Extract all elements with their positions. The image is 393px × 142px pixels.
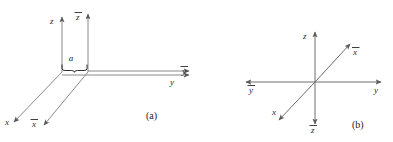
coordinate-systems-figure: z z y y x x a (a) bbox=[0, 0, 393, 142]
panel-a-label-ybar: y bbox=[181, 66, 186, 76]
panel-b-caption: (b) bbox=[352, 119, 364, 131]
panel-a-caption: (a) bbox=[146, 110, 157, 122]
panel-b-label-zbar: z bbox=[310, 125, 315, 135]
panel-b-label-ybar: y bbox=[248, 85, 253, 95]
panel-b: z z y y x x (b) bbox=[246, 31, 381, 135]
panel-b-axis-x bbox=[279, 82, 315, 120]
panel-a-label-x: x bbox=[4, 117, 9, 127]
panel-a-axis-xbar bbox=[44, 72, 88, 125]
figure-container: z z y y x x a (a) bbox=[0, 0, 393, 142]
panel-a-axis-x bbox=[14, 72, 62, 122]
panel-a-label-xbar: x bbox=[31, 119, 36, 129]
panel-a-label-zbar: z bbox=[75, 12, 80, 22]
panel-b-label-y: y bbox=[373, 85, 378, 95]
panel-a-label-y: y bbox=[169, 77, 174, 87]
panel-a-separation-brace bbox=[62, 65, 87, 73]
panel-b-axis-xbar bbox=[315, 44, 350, 82]
panel-b-label-xbar: x bbox=[352, 47, 357, 57]
panel-a: z z y y x x a (a) bbox=[4, 12, 189, 129]
panel-a-label-z: z bbox=[49, 16, 54, 26]
panel-b-label-x: x bbox=[271, 107, 276, 117]
panel-b-label-z: z bbox=[302, 31, 307, 41]
panel-a-label-a: a bbox=[69, 53, 74, 63]
